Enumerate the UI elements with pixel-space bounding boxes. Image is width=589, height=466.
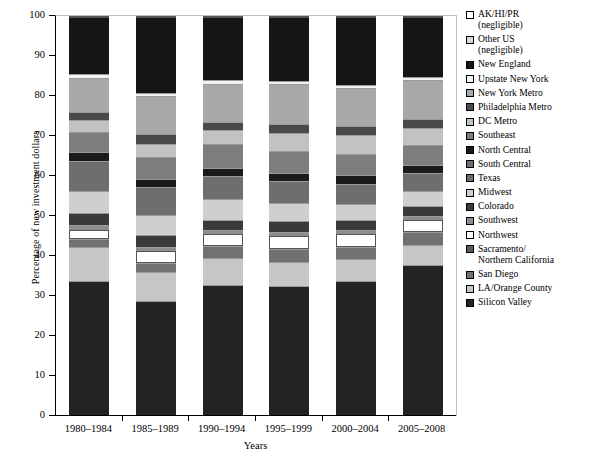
bar-6 (403, 16, 443, 416)
bar-segment (336, 184, 376, 204)
bar-segment (69, 78, 109, 112)
legend-item-label: Midwest (478, 186, 512, 197)
bar-segment (336, 16, 376, 18)
bar-segment (336, 247, 376, 259)
legend-item[interactable]: Southeast (466, 129, 586, 140)
legend-item[interactable]: San Diego (466, 268, 586, 279)
bar-segment (203, 246, 243, 257)
bar-segment (136, 144, 176, 157)
legend-item[interactable]: Upstate New York (466, 73, 586, 84)
bar-segment (203, 80, 243, 83)
bar-segment (269, 232, 309, 236)
y-axis-tick-label: 20 (12, 330, 45, 340)
bar-segment (69, 239, 109, 247)
legend-item[interactable]: LA/Orange County (466, 282, 586, 293)
legend-swatch-icon (466, 203, 474, 211)
bar-segment (403, 232, 443, 245)
bar-segment (403, 206, 443, 216)
bar-segment (336, 135, 376, 154)
legend-item-label: Colorado (478, 200, 514, 211)
bar-3 (203, 16, 243, 416)
bar-segment (336, 17, 376, 85)
bar-segment (336, 220, 376, 230)
legend-item[interactable]: Sacramento/Northern California (466, 243, 586, 265)
bar-segment (403, 245, 443, 265)
bar-segment (203, 258, 243, 285)
legend-item[interactable]: AK/HI/PR(negligible) (466, 8, 586, 30)
bar-4 (269, 16, 309, 416)
bar-1 (69, 16, 109, 416)
legend-swatch-icon (466, 11, 474, 19)
legend-swatch-icon (466, 118, 474, 126)
bar-segment (403, 16, 443, 18)
legend-item[interactable]: New York Metro (466, 87, 586, 98)
bar-segment (403, 17, 443, 77)
legend-item-label: North Central (478, 144, 531, 155)
legend-item[interactable]: Silicon Valley (466, 296, 586, 307)
bar-segment (269, 81, 309, 84)
bar-segment (136, 96, 176, 134)
bar-segment (203, 285, 243, 416)
legend-item-label: Other US(negligible) (478, 33, 523, 55)
bar-segment (203, 176, 243, 199)
legend-item[interactable]: Philadelphia Metro (466, 101, 586, 112)
legend-item[interactable]: South Central (466, 158, 586, 169)
legend-item-label: AK/HI/PR(negligible) (478, 8, 523, 30)
bar-segment (403, 128, 443, 145)
bar-segment (403, 173, 443, 191)
legend-swatch-icon (466, 231, 474, 239)
bar-segment (136, 157, 176, 179)
legend-item-label: Philadelphia Metro (478, 101, 552, 112)
bar-segment (269, 286, 309, 416)
bar-segment (136, 179, 176, 188)
legend-item[interactable]: Other US(negligible) (466, 33, 586, 55)
legend-item[interactable]: North Central (466, 144, 586, 155)
legend: AK/HI/PR(negligible)Other US(negligible)… (466, 8, 586, 311)
legend-item[interactable]: Texas (466, 172, 586, 183)
y-axis-tick-label: 80 (12, 90, 45, 100)
legend-item-label: Texas (478, 172, 500, 183)
legend-item[interactable]: Northwest (466, 229, 586, 240)
bar-segment (269, 221, 309, 232)
bar-segment (69, 161, 109, 191)
bar-segment (269, 17, 309, 81)
legend-item[interactable]: DC Metro (466, 115, 586, 126)
bar-segment (403, 191, 443, 206)
bar-segment (203, 17, 243, 80)
bar-segment (269, 203, 309, 221)
x-axis-line (55, 415, 456, 416)
bar-segment (269, 84, 309, 124)
bar-segment (203, 234, 243, 246)
legend-item-label: San Diego (478, 268, 518, 279)
legend-swatch-icon (466, 132, 474, 140)
y-axis-tick-label: 30 (12, 290, 45, 300)
bar-segment (336, 204, 376, 220)
bar-segment (136, 301, 176, 416)
bar-segment (136, 17, 176, 93)
bar-segment (69, 152, 109, 161)
bar-segment (269, 236, 309, 249)
legend-item[interactable]: Midwest (466, 186, 586, 197)
bar-segment (69, 213, 109, 225)
bar-segment (336, 126, 376, 135)
legend-item[interactable]: Colorado (466, 200, 586, 211)
legend-swatch-icon (466, 285, 474, 293)
legend-swatch-icon (466, 160, 474, 168)
bar-segment (136, 235, 176, 247)
bar-segment (336, 230, 376, 234)
bar-segment (136, 215, 176, 235)
bar-segment (69, 120, 109, 132)
legend-item[interactable]: New England (466, 58, 586, 69)
bar-segment (336, 281, 376, 416)
bar-segment (269, 249, 309, 262)
x-axis-tick-label: 2005–2008 (377, 423, 467, 434)
legend-item-label: Northwest (478, 229, 518, 240)
legend-swatch-icon (466, 245, 474, 253)
legend-item-label: LA/Orange County (478, 282, 552, 293)
bar-segment (403, 220, 443, 232)
bar-segment (136, 134, 176, 144)
legend-swatch-icon (466, 75, 474, 83)
bar-segment (69, 281, 109, 416)
legend-item[interactable]: Southwest (466, 214, 586, 225)
bar-segment (203, 84, 243, 122)
